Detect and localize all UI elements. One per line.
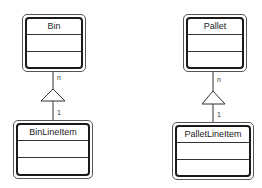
bin-triangle-icon: [41, 89, 65, 101]
class-pallet-attributes: [188, 35, 242, 52]
palletlineitem-multiplicity-1: 1: [217, 111, 221, 118]
pallet-triangle-icon: [202, 91, 225, 104]
pallet-multiplicity-n: n: [217, 76, 221, 83]
class-bin[interactable]: Bin: [22, 14, 86, 72]
class-binlineitem-attributes: [18, 141, 88, 158]
class-pallet[interactable]: Pallet: [183, 14, 247, 72]
class-binlineitem-operations: [18, 158, 88, 174]
class-binlineitem-frame: BinLineItem: [16, 123, 90, 176]
class-palletlineitem-operations: [177, 160, 249, 176]
class-binlineitem-name: BinLineItem: [18, 125, 88, 141]
class-bin-name: Bin: [27, 19, 81, 35]
class-palletlineitem-attributes: [177, 143, 249, 160]
binlineitem-multiplicity-1: 1: [57, 109, 61, 116]
bin-multiplicity-n: n: [57, 74, 61, 81]
class-pallet-frame: Pallet: [186, 17, 244, 69]
class-palletlineitem[interactable]: PalletLineItem: [172, 122, 254, 180]
class-palletlineitem-name: PalletLineItem: [177, 127, 249, 143]
class-binlineitem[interactable]: BinLineItem: [13, 120, 93, 179]
class-palletlineitem-frame: PalletLineItem: [175, 125, 251, 177]
class-bin-frame: Bin: [25, 17, 83, 69]
class-pallet-name: Pallet: [188, 19, 242, 35]
class-pallet-operations: [188, 52, 242, 68]
class-bin-operations: [27, 52, 81, 68]
class-bin-attributes: [27, 35, 81, 52]
